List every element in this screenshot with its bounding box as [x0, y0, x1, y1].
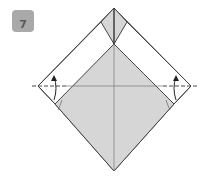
origami-fold-diagram — [0, 0, 208, 179]
